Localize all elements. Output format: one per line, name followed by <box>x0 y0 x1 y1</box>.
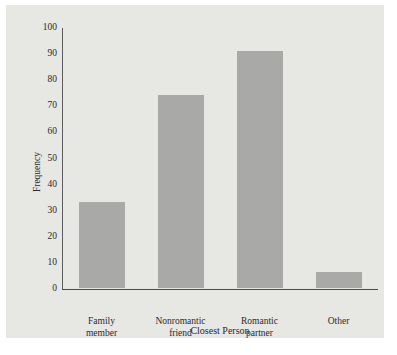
y-tick-label: 100 <box>43 23 57 33</box>
y-tick-label: 10 <box>48 258 58 268</box>
y-axis-line <box>62 28 63 290</box>
y-tick-label: 50 <box>48 154 58 164</box>
chart-figure: Frequency 0102030405060708090100 Familym… <box>6 5 384 338</box>
y-tick-label: 0 <box>52 284 57 294</box>
y-tick-label: 20 <box>48 232 58 242</box>
x-axis-title: Closest Person <box>62 325 378 336</box>
bar <box>158 95 204 288</box>
y-axis-title: Frequency <box>32 151 42 191</box>
y-tick-label: 30 <box>48 206 58 216</box>
y-tick-label: 80 <box>48 75 58 85</box>
y-tick-label: 60 <box>48 128 58 138</box>
plot-area: 0102030405060708090100 FamilymemberNonro… <box>62 28 378 289</box>
y-tick-label: 90 <box>48 49 58 59</box>
bar <box>316 272 362 288</box>
bar <box>79 202 125 288</box>
y-tick-label: 40 <box>48 180 58 190</box>
y-tick-label: 70 <box>48 102 58 112</box>
bar <box>237 51 283 289</box>
x-axis-line <box>62 289 378 290</box>
